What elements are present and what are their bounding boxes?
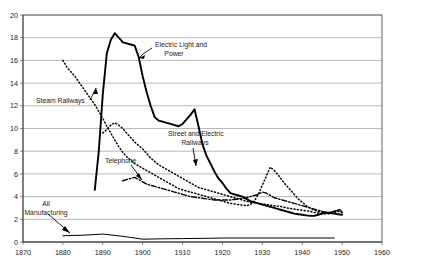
y-tick-label-8: 8	[14, 147, 18, 156]
y-tick-label-18: 18	[10, 33, 18, 42]
x-tick-label-1920: 1920	[214, 248, 230, 257]
chart-container: 02468101214161820 1870188018901900191019…	[0, 0, 435, 268]
y-tick-label-6: 6	[14, 170, 18, 179]
y-tick-label-4: 4	[14, 192, 18, 201]
x-tick-label-1940: 1940	[294, 248, 310, 257]
y-tick-label-14: 14	[10, 79, 18, 88]
street-railways-label-line1: Street and Electric	[168, 130, 224, 137]
line-chart: 02468101214161820 1870188018901900191019…	[0, 0, 435, 268]
y-tick-label-10: 10	[10, 124, 18, 133]
x-tick-label-1910: 1910	[175, 248, 191, 257]
electric-light-label-line1: Electric Light and	[155, 41, 207, 49]
all-manufacturing-label-line2: Manufacturing	[24, 209, 67, 217]
x-tick-label-1930: 1930	[254, 248, 270, 257]
x-tick-label-1900: 1900	[135, 248, 151, 257]
telephone-label: Telephone	[105, 157, 137, 165]
y-tick-label-20: 20	[10, 11, 18, 20]
x-tick-label-1960: 1960	[374, 248, 390, 257]
y-tick-label-2: 2	[14, 215, 18, 224]
x-tick-label-1890: 1890	[95, 248, 111, 257]
x-tick-label-1950: 1950	[334, 248, 350, 257]
all-manufacturing-label-line1: All	[42, 200, 50, 207]
x-tick-label-1880: 1880	[55, 248, 71, 257]
y-tick-label-16: 16	[10, 56, 18, 65]
steam-railways-label: Steam Railways	[36, 97, 85, 105]
electric-light-label-line2: Power	[164, 50, 184, 57]
street-railways-label-line2: Railways	[181, 139, 209, 147]
x-tick-label-1870: 1870	[15, 248, 31, 257]
y-tick-label-0: 0	[14, 238, 18, 247]
y-tick-label-12: 12	[10, 101, 18, 110]
